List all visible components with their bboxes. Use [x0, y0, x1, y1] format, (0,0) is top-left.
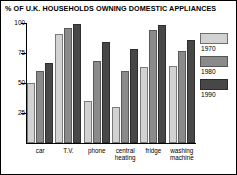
bar-group	[84, 23, 111, 143]
bar	[149, 30, 157, 143]
bar-group	[55, 23, 82, 143]
bar-group	[112, 23, 139, 143]
bar	[112, 107, 120, 143]
y-tick-label: 50	[7, 80, 25, 86]
bar	[84, 101, 92, 143]
bar	[27, 83, 35, 143]
y-axis-ticks: 100755025	[1, 1, 25, 175]
legend-item: 1970	[200, 33, 236, 53]
bar	[93, 61, 101, 143]
legend-item: 1980	[200, 56, 236, 76]
bar-group	[169, 23, 196, 143]
y-tick-label: 75	[7, 50, 25, 56]
legend-label: 1980	[200, 67, 236, 76]
legend-label: 1970	[200, 44, 236, 53]
legend-label: 1990	[200, 90, 236, 99]
bar	[121, 71, 129, 143]
bar	[187, 40, 195, 143]
bar	[73, 24, 81, 143]
x-axis-category-labels: carT.V.phonecentral heatingfridgewashing…	[26, 147, 196, 173]
y-tick-label: 25	[7, 110, 25, 116]
legend-swatch	[200, 33, 228, 44]
legend-item: 1990	[200, 79, 236, 99]
legend-swatch	[200, 79, 228, 90]
chart-figure: % OF U.K. HOUSEHOLDS OWNING DOMESTIC APP…	[0, 0, 237, 175]
chart-title: % OF U.K. HOUSEHOLDS OWNING DOMESTIC APP…	[5, 4, 216, 13]
chart-legend: 197019801990	[200, 33, 236, 102]
legend-swatch	[200, 56, 228, 67]
bar	[102, 42, 110, 143]
bar-group	[140, 23, 167, 143]
bar-group	[27, 23, 54, 143]
bar	[55, 34, 63, 143]
bar	[45, 63, 53, 143]
plot-area	[26, 23, 196, 143]
bar	[169, 66, 177, 143]
bar	[36, 71, 44, 143]
y-tick-label: 100	[7, 20, 25, 26]
bar	[158, 25, 166, 143]
bar	[178, 51, 186, 143]
bar	[130, 49, 138, 143]
x-axis-line	[26, 143, 196, 144]
bar	[64, 28, 72, 143]
x-axis-label: washing machine	[165, 147, 199, 161]
bar	[140, 67, 148, 143]
